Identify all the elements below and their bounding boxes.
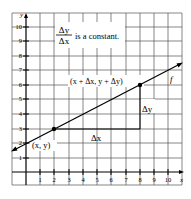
slope-diagram: 1 2 3 4 5 6 7 8 9 10 1 2 3 4 5 6 7 8 9 1…	[0, 0, 191, 199]
y-axis-label: y	[19, 11, 24, 19]
y-tick-label: 1	[19, 154, 22, 161]
x-tick-label: 2	[52, 176, 55, 183]
x-tick-label: 5	[95, 176, 98, 183]
y-tick-label: 6	[19, 81, 23, 88]
x-axis-label: x	[179, 176, 184, 184]
x-tick-label: 10	[165, 176, 172, 183]
x-axis-arrow-icon	[179, 170, 184, 174]
y-tick-label: 9	[19, 37, 22, 44]
point-x-dx-y-dy	[138, 83, 142, 87]
fraction-denominator: Δx	[59, 36, 70, 46]
x-tick-label: 8	[138, 176, 141, 183]
x-tick-label: 9	[152, 176, 155, 183]
fraction-numerator: Δy	[59, 25, 70, 35]
x-tick-label: 3	[67, 176, 70, 183]
dy-label: Δy	[142, 104, 153, 114]
function-label: f	[170, 74, 174, 84]
x-tick-label: 4	[81, 176, 85, 183]
dx-label: Δx	[91, 133, 102, 143]
annotation-text: is a constant.	[75, 31, 119, 41]
y-tick-label: 7	[19, 66, 23, 73]
y-tick-label: 3	[19, 125, 22, 132]
x-tick-label: 1	[38, 176, 41, 183]
x-tick-label: 6	[109, 176, 113, 183]
point-xy	[52, 127, 56, 131]
y-tick-label: 2	[19, 139, 22, 146]
y-tick-label: 5	[19, 95, 22, 102]
y-tick-label: 4	[19, 110, 23, 117]
point2-label: (x + Δx, y + Δy)	[70, 77, 123, 86]
x-tick-label: 7	[124, 176, 128, 183]
point1-label: (x, y)	[32, 140, 51, 150]
y-tick-label: 10	[16, 23, 23, 30]
y-tick-label: 8	[19, 52, 22, 59]
y-axis-arrow-icon	[24, 13, 28, 18]
